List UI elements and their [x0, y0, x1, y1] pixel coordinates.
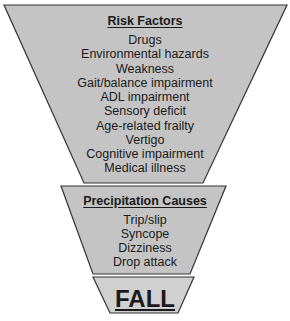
risk-factor-item: Vertigo: [0, 133, 290, 147]
precipitation-cause-item: Trip/slip: [0, 213, 290, 227]
risk-factor-item: Gait/balance impairment: [0, 76, 290, 90]
risk-factor-item: Environmental hazards: [0, 47, 290, 61]
fall-label: FALL: [0, 286, 290, 312]
precipitation-causes-heading: Precipitation Causes: [0, 194, 290, 208]
risk-factor-item: Sensory deficit: [0, 104, 290, 118]
risk-factor-item: Cognitive impairment: [0, 147, 290, 161]
risk-factor-item: Age-related frailty: [0, 119, 290, 133]
risk-factor-item: ADL impairment: [0, 90, 290, 104]
precipitation-cause-item: Syncope: [0, 227, 290, 241]
risk-factors-heading: Risk Factors: [0, 14, 290, 28]
precipitation-cause-item: Dizziness: [0, 241, 290, 255]
precipitation-cause-item: Drop attack: [0, 255, 290, 269]
risk-factor-item: Drugs: [0, 33, 290, 47]
risk-factor-item: Medical illness: [0, 161, 290, 175]
risk-factor-item: Weakness: [0, 62, 290, 76]
